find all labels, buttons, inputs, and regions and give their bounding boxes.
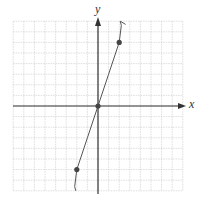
x-axis-label: x [189,97,194,112]
data-point [74,167,79,172]
x-axis-arrow-icon [178,103,186,109]
data-point [117,40,122,45]
graph [0,0,205,204]
data-point [95,103,100,108]
y-axis-label: y [95,2,100,17]
